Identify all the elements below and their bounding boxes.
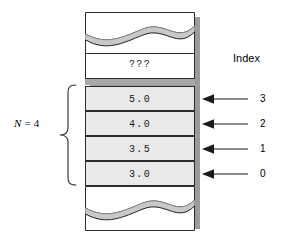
index-arrow-0-label: 0 (260, 167, 274, 181)
index-arrow-2-label: 2 (260, 117, 274, 131)
array-length-equals: = (22, 117, 34, 129)
index-arrow-0: 0 (202, 167, 274, 181)
arrow-left-icon (202, 92, 252, 106)
array-cell-2: 4.0 (85, 111, 195, 136)
index-arrow-3: 3 (202, 92, 274, 106)
array-index-diagram: ??? 5.0 4.0 3.5 3.0 N = 4 Index (0, 0, 281, 241)
array-cell-unused-label: ??? (86, 59, 194, 70)
array-cell-1: 3.5 (85, 136, 195, 161)
curly-brace (58, 84, 78, 190)
index-arrow-1-label: 1 (260, 142, 274, 156)
index-arrow-1: 1 (202, 142, 274, 156)
array-cell-3: 5.0 (85, 86, 195, 111)
index-arrow-3-label: 3 (260, 92, 274, 106)
array-length-variable: N (14, 117, 22, 129)
arrow-left-icon (202, 117, 252, 131)
array-cell-0: 3.0 (85, 161, 195, 186)
arrow-left-icon (202, 142, 252, 156)
array-gap-strip (85, 79, 195, 85)
array-cell-2-value: 4.0 (86, 119, 194, 130)
index-column-title: Index (233, 52, 260, 64)
array-break-bottom (85, 186, 195, 231)
array-break-top (85, 12, 195, 54)
array-length-label: N = 4 (14, 117, 40, 129)
array-cell-3-value: 5.0 (86, 94, 194, 105)
arrow-left-icon (202, 167, 252, 181)
array-cell-1-value: 3.5 (86, 144, 194, 155)
array-cell-0-value: 3.0 (86, 169, 194, 180)
array-length-value: 4 (34, 117, 40, 129)
index-arrow-2: 2 (202, 117, 274, 131)
